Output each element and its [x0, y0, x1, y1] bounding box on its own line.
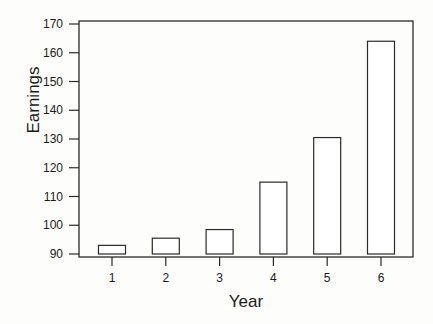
y-tick-label: 170: [43, 17, 63, 31]
bar-year-1: [99, 245, 126, 254]
y-tick-label: 130: [43, 132, 63, 146]
bar-year-4: [260, 182, 287, 254]
earnings-bar-chart: 90100110120130140150160170 123456 Year E…: [0, 0, 433, 324]
x-tick-label: 1: [109, 271, 116, 285]
y-tick-label: 90: [50, 247, 64, 261]
x-tick-label: 6: [378, 271, 385, 285]
bar-year-6: [368, 41, 395, 254]
x-tick-label: 2: [162, 271, 169, 285]
y-tick-label: 100: [43, 218, 63, 232]
y-tick-label: 120: [43, 161, 63, 175]
x-axis: 123456: [109, 257, 385, 285]
y-axis-title: Earnings: [24, 66, 43, 133]
bar-year-5: [314, 138, 341, 254]
bar-year-3: [206, 230, 233, 254]
y-tick-label: 150: [43, 75, 63, 89]
y-tick-label: 110: [44, 190, 63, 204]
y-tick-label: 140: [43, 103, 63, 117]
y-tick-label: 160: [43, 46, 63, 60]
plot-frame: [79, 21, 413, 257]
x-tick-label: 3: [216, 271, 223, 285]
bar-year-2: [152, 238, 179, 254]
x-axis-title: Year: [229, 292, 264, 311]
x-tick-label: 4: [270, 271, 277, 285]
y-axis: 90100110120130140150160170: [43, 17, 79, 261]
bar-series: [99, 41, 395, 254]
x-tick-label: 5: [324, 271, 331, 285]
